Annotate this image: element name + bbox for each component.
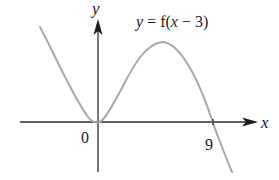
equation-tail: − 3) — [178, 13, 208, 31]
equation-eq: = f( — [143, 13, 171, 31]
origin-label: 0 — [81, 129, 89, 146]
function-curve — [40, 27, 232, 172]
equation-x: x — [170, 13, 178, 30]
x-root-label: 9 — [205, 136, 213, 153]
function-graph: y x 0 9 y = f(x − 3) — [0, 0, 279, 180]
x-axis-label: x — [260, 113, 269, 132]
y-axis-label: y — [90, 0, 100, 18]
equation-label: y = f(x − 3) — [134, 13, 208, 31]
